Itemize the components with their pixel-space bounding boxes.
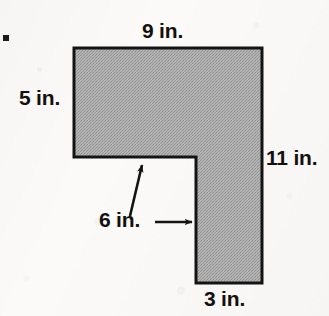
dimension-label-top: 9 in. — [142, 20, 183, 41]
dimension-label-left: 5 in. — [19, 87, 60, 108]
dimension-label-inner: 6 in. — [99, 209, 140, 230]
dimension-label-bottom: 3 in. — [204, 288, 245, 309]
figure-page: 9 in. 5 in. 11 in. 6 in. 3 in. — [0, 0, 329, 316]
dimension-label-right: 11 in. — [266, 147, 317, 168]
l-shape-polygon — [74, 48, 262, 283]
